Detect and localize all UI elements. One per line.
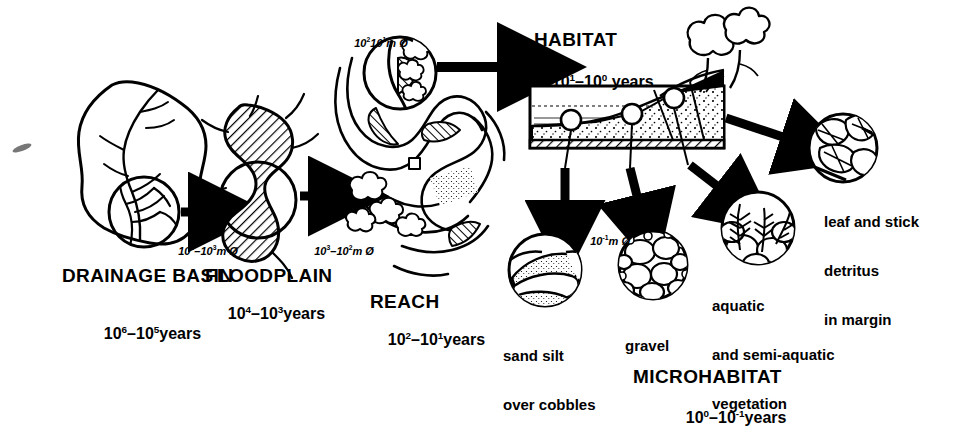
- timescale-floodplain: 104–103years: [210, 288, 325, 340]
- microhabitat-vegetation-circle: [720, 192, 796, 274]
- caption-line-2: and semi-aquatic: [712, 347, 835, 363]
- label-floodplain: FLOODPLAIN: [205, 266, 333, 287]
- scale-label-floodplain: 103–102m Ø: [302, 232, 374, 269]
- arrow-habitat-to-vegetation: [690, 165, 730, 196]
- caption-line-1: sand silt: [503, 348, 596, 364]
- scale-label-drainage-basin: 104–103m Ø: [166, 232, 238, 269]
- caption-line-2: over cobbles: [503, 397, 596, 413]
- caption-line-1: aquatic: [712, 298, 835, 314]
- scale-label-reach: 102101m Ø: [342, 24, 408, 61]
- arrow-habitat-to-gravel: [630, 168, 641, 212]
- ink-fleck: [12, 142, 33, 154]
- timescale-reach: 102–101years: [370, 314, 485, 366]
- timescale-habitat: 101–100 years: [534, 56, 654, 108]
- scale-label-habitat: 10-1m Ø: [578, 222, 630, 259]
- reach-riparian-vegetation: [346, 172, 425, 236]
- timescale-drainage-basin: 106–105years: [86, 308, 201, 360]
- caption-sand-silt-over-cobbles: sand silt over cobbles: [503, 316, 596, 432]
- caption-gravel: gravel: [625, 306, 669, 387]
- caption-aquatic-vegetation: aquatic and semi-aquatic vegetation: [712, 266, 835, 432]
- arrow-reach-to-habitat: [437, 48, 517, 88]
- caption-line-3: vegetation: [712, 396, 835, 412]
- caption-line-1: gravel: [625, 338, 669, 354]
- microhabitat-detritus-circle: [809, 114, 884, 182]
- label-habitat: HABITAT: [534, 30, 617, 51]
- arrow-habitat-to-detritus: [726, 118, 798, 142]
- caption-leaf-stick-detritus: leaf and stick detritus in margin: [824, 182, 919, 360]
- diagram-canvas: 104–103m Ø 103–102m Ø 102101m Ø 10-1m Ø …: [0, 0, 971, 432]
- caption-line-2: detritus: [824, 263, 919, 279]
- label-reach: REACH: [370, 292, 440, 313]
- habitat-riparian-trees: [688, 8, 770, 92]
- caption-line-3: in margin: [824, 312, 919, 328]
- caption-line-1: leaf and stick: [824, 214, 919, 230]
